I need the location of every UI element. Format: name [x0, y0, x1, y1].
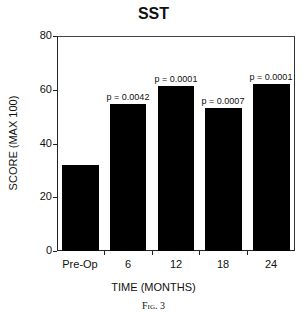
bar-pre-op: [62, 165, 99, 251]
x-tick-12: 12: [151, 258, 201, 270]
x-tick-mark: [152, 251, 153, 255]
x-tick-mark: [199, 251, 200, 255]
y-tick-40: 40: [22, 137, 52, 149]
p-value-18: p = 0.0007: [193, 96, 253, 106]
bar-12: [158, 86, 194, 251]
bar-24: [253, 84, 290, 251]
x-tick-6: 6: [103, 258, 153, 270]
y-axis-label: SCORE (MAX 100): [7, 78, 19, 208]
x-tick-mark: [247, 251, 248, 255]
x-tick-pre-op: Pre-Op: [55, 258, 105, 270]
x-tick-24: 24: [246, 258, 296, 270]
bar-6: [110, 104, 146, 251]
y-tick-mark: [53, 251, 57, 252]
bar-18: [205, 108, 242, 251]
figure-caption: Fig. 3: [0, 300, 307, 311]
x-tick-mark: [104, 251, 105, 255]
chart-title: SST: [0, 5, 307, 23]
p-value-6: p = 0.0042: [98, 92, 158, 102]
y-tick-60: 60: [22, 83, 52, 95]
x-axis-label: TIME (MONTHS): [0, 281, 307, 293]
x-tick-18: 18: [198, 258, 248, 270]
y-tick-80: 80: [22, 29, 52, 41]
p-value-12: p = 0.0001: [146, 74, 206, 84]
p-value-24: p = 0.0001: [241, 72, 301, 82]
y-tick-0: 0: [22, 244, 52, 256]
y-tick-20: 20: [22, 190, 52, 202]
